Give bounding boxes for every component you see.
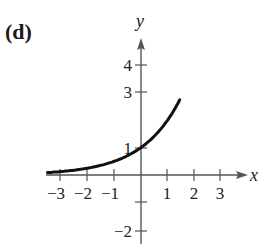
- y-tick-label: 3: [124, 83, 133, 102]
- y-tick-label: −2: [114, 222, 132, 241]
- function-plot: x y −3−2−1123 431−2: [0, 0, 266, 250]
- x-tick-label: 3: [216, 184, 225, 203]
- exponential-curve: [48, 100, 180, 173]
- x-tick-label: 2: [190, 184, 199, 203]
- x-ticks: −3−2−1123: [47, 169, 224, 203]
- x-tick-label: −1: [101, 184, 119, 203]
- y-tick-label: 4: [124, 56, 133, 75]
- x-tick-label: −3: [47, 184, 65, 203]
- x-tick-label: −2: [74, 184, 92, 203]
- x-tick-label: 1: [163, 184, 172, 203]
- y-axis-label: y: [134, 11, 144, 31]
- x-axis-label: x: [249, 165, 258, 185]
